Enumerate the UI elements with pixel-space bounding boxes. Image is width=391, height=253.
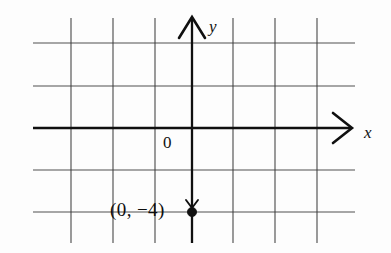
origin-label: 0 (163, 134, 172, 151)
x-axis-label: x (364, 124, 372, 141)
point-coordinate-label: (0, −4) (110, 200, 165, 219)
graph-canvas (0, 0, 391, 253)
coordinate-plane-figure: y x 0 (0, −4) (0, 0, 391, 253)
y-axis-label: y (209, 18, 217, 35)
data-point-marker (187, 207, 196, 216)
